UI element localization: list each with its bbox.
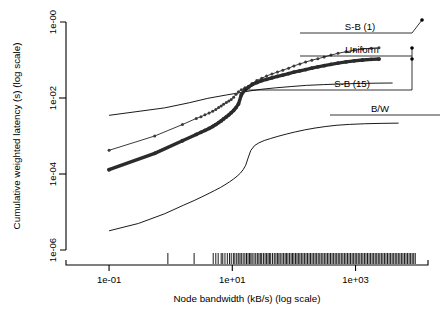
chart-figure: 1e-001e-021e-041e-061e-011e+011e+03 S-B … (0, 0, 444, 321)
series-point (234, 106, 238, 110)
series-point (361, 58, 365, 62)
series-point (237, 90, 240, 93)
series-point (181, 139, 185, 143)
y-axis-line (60, 22, 66, 250)
y-axis-tick-label: 1e-06 (47, 238, 58, 262)
series-point (203, 113, 206, 116)
series-point (260, 79, 264, 83)
series-point (369, 57, 373, 61)
series-point (250, 83, 254, 87)
series-point (377, 57, 381, 61)
series-point (217, 106, 220, 109)
series-point (107, 168, 111, 172)
series-point (270, 72, 273, 75)
series-point (237, 102, 241, 106)
series-point (336, 61, 340, 65)
series-point (222, 103, 225, 106)
series-point (153, 151, 157, 155)
series-point (265, 74, 268, 77)
x-axis-tick-label: 1e+01 (219, 274, 246, 285)
data-series (107, 46, 398, 231)
series-point (195, 117, 198, 120)
series-label-s-b-1: S-B (1) (345, 21, 375, 32)
series-point (232, 96, 235, 99)
series-point (281, 69, 284, 72)
series-point (199, 115, 202, 118)
series-point (108, 149, 111, 152)
series-point (255, 81, 259, 85)
series-point (352, 59, 356, 63)
series-point (337, 52, 340, 55)
series-point (287, 72, 291, 76)
series-point (181, 123, 184, 126)
series-point (298, 69, 302, 73)
series-point (316, 65, 320, 69)
series-point (276, 75, 280, 79)
series-point (235, 93, 238, 96)
series-point (292, 70, 296, 74)
series-point (304, 68, 308, 72)
y-axis-tick-label: 1e-04 (47, 162, 58, 186)
series-point (281, 73, 285, 77)
y-axis-tick-label: 1e-00 (47, 10, 58, 34)
series-point (316, 57, 319, 60)
annotation-connector (412, 20, 422, 33)
series-point (194, 133, 198, 137)
y-axis-tick-label: 1e-02 (47, 86, 58, 110)
x-axis-title: Node bandwidth (kB/s) (log scale) (173, 293, 320, 304)
series-point (208, 112, 211, 115)
series-point (247, 85, 251, 89)
series-point (298, 62, 301, 65)
series-line (109, 59, 379, 170)
series-point (153, 135, 156, 138)
series-point (329, 62, 333, 66)
series-point (207, 127, 211, 131)
series-point (287, 67, 290, 70)
series-point (344, 60, 348, 64)
series-label-b-w: B/W (371, 103, 390, 114)
y-axis-title: Cumulative weighted latency (s) (log sca… (11, 43, 22, 230)
series-point (225, 101, 228, 104)
annotation-marker (410, 46, 414, 50)
series-label-s-b-15: S-B (15) (334, 78, 370, 89)
series-point (211, 125, 215, 129)
series-point (310, 66, 314, 70)
annotation-marker (410, 57, 414, 61)
series-label-uniform: Uniform (345, 44, 379, 55)
annotation-marker (420, 18, 424, 22)
series-point (265, 77, 269, 81)
series-line (109, 123, 399, 231)
series-point (270, 76, 274, 80)
series-point (239, 93, 243, 97)
series-point (203, 129, 207, 133)
chart-svg: 1e-001e-021e-041e-061e-011e+011e+03 S-B … (0, 0, 444, 321)
x-axis-tick-label: 1e+03 (342, 274, 369, 285)
series-point (199, 130, 203, 134)
series-point (211, 110, 214, 113)
series-point (214, 108, 217, 111)
series-point (230, 98, 233, 101)
x-axis-tick-label: 1e-01 (97, 274, 121, 285)
series-point (276, 71, 279, 74)
series-annotations: S-B (1)UniformS-B (15)B/W (245, 18, 440, 115)
series-point (322, 64, 326, 68)
series-point (310, 59, 313, 62)
series-point (292, 64, 295, 67)
series-point (232, 109, 236, 113)
rug-plot (168, 253, 415, 264)
series-point (304, 61, 307, 64)
